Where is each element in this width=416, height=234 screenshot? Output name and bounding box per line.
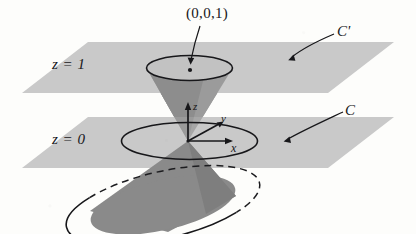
point-0-0-1 xyxy=(188,68,192,72)
axis-label-z: z xyxy=(192,100,198,112)
plane-label-z-equals-1: z = 1 xyxy=(52,57,85,72)
figure-canvas: z y x (0,0,1) C' C z = 1 z = 0 xyxy=(0,0,416,234)
curve-label-c: C xyxy=(345,103,355,118)
axis-label-y: y xyxy=(220,112,226,124)
plane-label-z-equals-0: z = 0 xyxy=(52,132,85,147)
curve-label-c-prime: C' xyxy=(337,24,350,39)
point-label: (0,0,1) xyxy=(186,6,228,21)
axis-label-x: x xyxy=(230,141,237,155)
origin-apex xyxy=(186,139,189,142)
